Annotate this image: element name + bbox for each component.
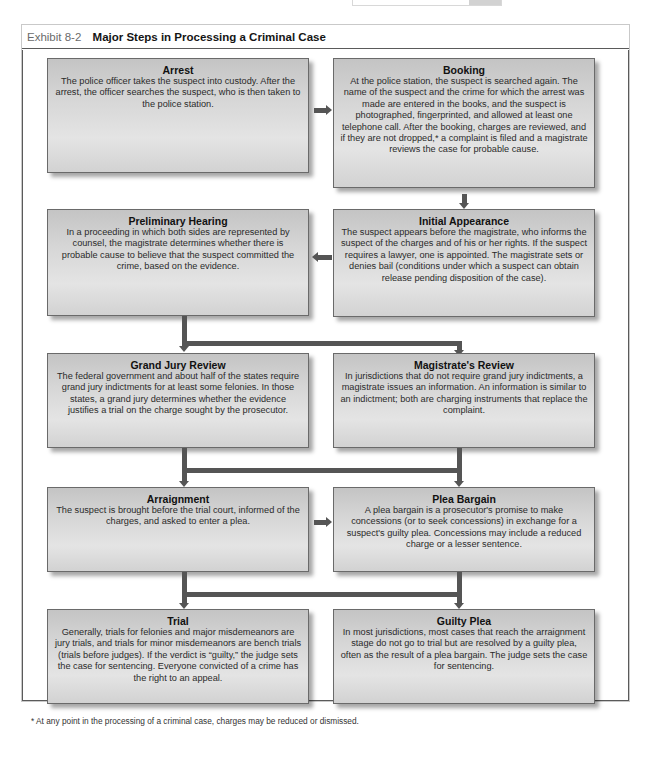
merge-connector-horizontal	[182, 468, 462, 473]
final-connector-vertical-right	[457, 572, 462, 605]
step-preliminary-hearing: Preliminary Hearing In a proceeding in w…	[47, 209, 309, 316]
step-plea-bargain: Plea Bargain A plea bargain is a prosecu…	[333, 487, 595, 572]
step-description: The suspect is brought before the trial …	[54, 505, 302, 528]
step-title: Plea Bargain	[340, 493, 588, 505]
step-description: In jurisdictions that do not require gra…	[340, 371, 588, 417]
step-title: Trial	[54, 615, 302, 627]
exhibit-header: Exhibit 8-2 Major Steps in Processing a …	[22, 25, 629, 49]
step-title: Magistrate's Review	[340, 359, 588, 371]
step-trial: Trial Generally, trials for felonies and…	[47, 609, 309, 704]
step-initial-appearance: Initial Appearance The suspect appears b…	[333, 209, 595, 317]
step-description: At the police station, the suspect is se…	[340, 76, 588, 156]
split-connector-horizontal	[182, 341, 462, 346]
step-magistrates-review: Magistrate's Review In jurisdictions tha…	[333, 353, 595, 448]
step-title: Arraignment	[54, 493, 302, 505]
step-grand-jury-review: Grand Jury Review The federal government…	[47, 353, 309, 448]
step-description: The suspect appears before the magistrat…	[340, 227, 588, 284]
exhibit-title: Major Steps in Processing a Criminal Cas…	[93, 31, 326, 43]
arrow-initial-to-preliminary-shaft	[318, 255, 332, 260]
flowchart-body: Arrest The police officer takes the susp…	[22, 50, 629, 701]
step-title: Arrest	[54, 64, 302, 76]
merge-connector-vertical-left	[182, 448, 187, 483]
step-title: Guilty Plea	[340, 615, 588, 627]
step-title: Initial Appearance	[340, 215, 588, 227]
step-title: Preliminary Hearing	[54, 215, 302, 227]
final-connector-vertical-left	[182, 572, 187, 605]
exhibit-number: Exhibit 8-2	[27, 31, 81, 43]
exhibit-frame: Exhibit 8-2 Major Steps in Processing a …	[21, 24, 630, 702]
arrow-right-icon	[326, 105, 332, 115]
merge-connector-vertical-right	[457, 448, 462, 483]
step-guilty-plea: Guilty Plea In most jurisdictions, most …	[333, 609, 595, 704]
step-description: In a proceeding in which both sides are …	[54, 227, 302, 273]
final-connector-horizontal	[182, 592, 462, 597]
step-description: The federal government and about half of…	[54, 371, 302, 417]
arrow-right-icon	[326, 517, 332, 527]
step-description: Generally, trials for felonies and major…	[54, 627, 302, 684]
step-arrest: Arrest The police officer takes the susp…	[47, 58, 309, 173]
step-description: A plea bargain is a prosecutor's promise…	[340, 505, 588, 551]
step-description: The police officer takes the suspect int…	[54, 76, 302, 110]
top-stub-tab	[469, 0, 501, 5]
step-title: Grand Jury Review	[54, 359, 302, 371]
step-booking: Booking At the police station, the suspe…	[333, 58, 595, 188]
step-description: In most jurisdictions, most cases that r…	[340, 627, 588, 673]
top-input-stub	[352, 0, 502, 6]
step-title: Booking	[340, 64, 588, 76]
arrow-down-icon	[179, 346, 189, 352]
step-arraignment: Arraignment The suspect is brought befor…	[47, 487, 309, 572]
footnote: * At any point in the processing of a cr…	[31, 716, 359, 726]
